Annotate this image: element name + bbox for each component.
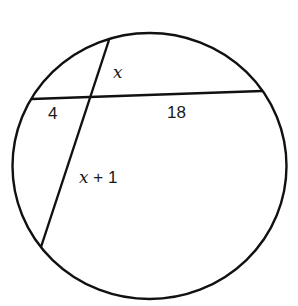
circle (13, 33, 287, 299)
label-left-segment: 4 (48, 104, 57, 123)
label-lower-segment: x + 1 (79, 167, 117, 187)
label-right-segment: 18 (167, 103, 186, 122)
slanted-chord (41, 40, 109, 247)
label-upper-segment: x (113, 62, 123, 82)
diagram-canvas: x 4 18 x + 1 (0, 0, 298, 306)
label-lower-var: x (79, 167, 89, 187)
label-lower-rest: + 1 (89, 168, 118, 187)
horizontal-chord (32, 91, 262, 99)
